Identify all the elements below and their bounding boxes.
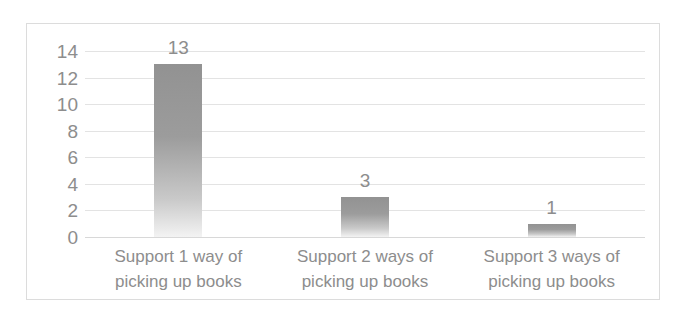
x-axis-category-label: Support 1 way ofpicking up books	[85, 245, 272, 294]
y-axis-tick-label: 6	[38, 148, 78, 167]
bar[interactable]	[154, 64, 202, 237]
y-axis-tick-label: 12	[38, 68, 78, 87]
bar-value-label: 1	[512, 198, 592, 217]
y-axis: 14121086420	[30, 51, 78, 237]
x-axis-category-label: Support 3 ways ofpicking up books	[458, 245, 645, 294]
y-axis-tick-label: 0	[38, 228, 78, 247]
bar[interactable]	[528, 224, 576, 237]
x-axis-label-line: Support 3 ways of	[458, 245, 645, 270]
x-axis-label-line: picking up books	[272, 270, 459, 295]
x-axis-label-line: picking up books	[458, 270, 645, 295]
bar-chart-figure: 14121086420 1331 Support 1 way ofpicking…	[0, 0, 684, 325]
x-axis-label-line: Support 1 way of	[85, 245, 272, 270]
y-axis-tick-label: 8	[38, 121, 78, 140]
bar[interactable]	[341, 197, 389, 237]
plot-area: 1331	[85, 51, 645, 237]
bar-value-label: 3	[325, 171, 405, 190]
y-axis-tick-label: 14	[38, 42, 78, 61]
y-axis-tick-label: 2	[38, 201, 78, 220]
axis-baseline	[85, 237, 645, 238]
x-axis: Support 1 way ofpicking up booksSupport …	[85, 245, 645, 297]
x-axis-category-label: Support 2 ways ofpicking up books	[272, 245, 459, 294]
y-axis-tick-label: 4	[38, 174, 78, 193]
x-axis-label-line: Support 2 ways of	[272, 245, 459, 270]
y-axis-tick-label: 10	[38, 95, 78, 114]
x-axis-label-line: picking up books	[85, 270, 272, 295]
bar-value-label: 13	[138, 38, 218, 57]
